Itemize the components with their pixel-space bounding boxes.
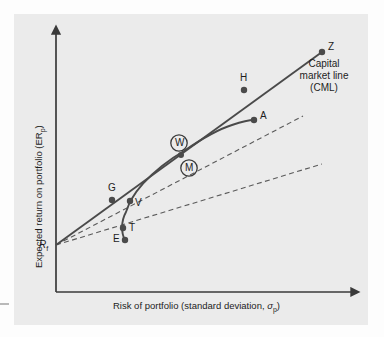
y-axis-title-close: ) [33, 125, 44, 128]
data-point-V [127, 198, 133, 204]
point-label-V: V [135, 197, 142, 208]
cml-annotation-line3: (CML) [310, 82, 338, 93]
data-point-A [251, 117, 257, 123]
cml-annotation: Capital market line (CML) [286, 58, 362, 95]
data-point-G [109, 197, 115, 203]
data-point-H [241, 87, 247, 93]
data-point-Z [319, 49, 325, 55]
data-point-E [122, 237, 128, 243]
data-point-T [120, 225, 126, 231]
x-axis-title-text: Risk of portfolio (standard deviation, [113, 300, 267, 311]
point-label-Z: Z [328, 41, 334, 52]
cml-annotation-line2: market line [300, 70, 349, 81]
data-point-tangency [178, 152, 184, 158]
cml-annotation-line1: Capital [308, 58, 339, 69]
point-label-T: T [129, 222, 135, 233]
y-axis-title-subscript: p [39, 128, 46, 132]
point-label-E: E [113, 233, 120, 244]
figure-capital-market-line: Z H A W M G V T E Rf Capital market line… [0, 0, 384, 337]
x-axis-title: Risk of portfolio (standard deviation, σ… [113, 300, 280, 313]
point-label-H: H [240, 72, 247, 83]
point-label-A: A [260, 110, 267, 121]
point-label-G: G [108, 182, 116, 193]
x-axis-title-close: ) [277, 300, 280, 311]
y-axis-title: Expected return on portfolio (ERp) [33, 125, 46, 268]
y-axis-title-text: Expected return on portfolio (ER [33, 132, 44, 268]
efficient-frontier-curve [122, 120, 254, 240]
risk-free-rate-subscript: f [46, 244, 48, 253]
point-label-M: M [185, 162, 193, 173]
point-label-W: W [175, 137, 184, 148]
